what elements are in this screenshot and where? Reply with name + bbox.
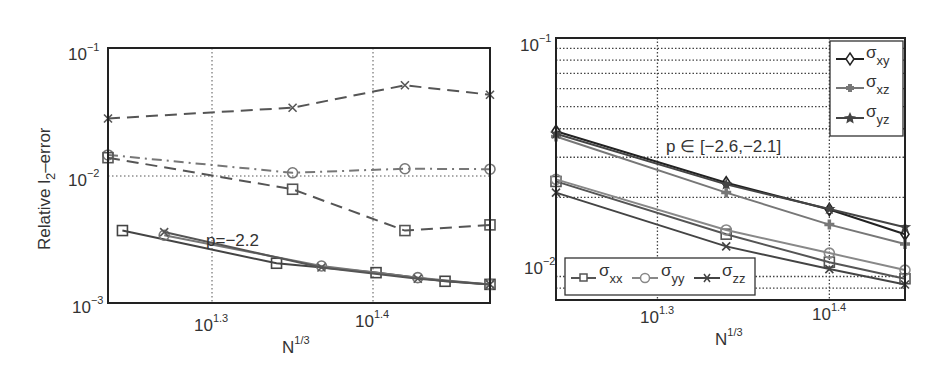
left-xtick-1: 101.3	[194, 312, 228, 335]
right-slope-annotation: p ∈ [−2.6,−2.1]	[666, 137, 781, 156]
legend-top-right: σxy σxz σyz	[830, 41, 903, 136]
left-xlabel: N1/3	[282, 334, 310, 357]
right-xtick-1: 101.3	[640, 304, 674, 327]
left-ylabel: Relative l2–error	[35, 127, 58, 250]
left-ytick-1: 10−1	[68, 41, 99, 64]
left-chart: 10−1 10−2 10−3 101.3 101.4 N1/3 Relative…	[35, 41, 495, 357]
figure: 10−1 10−2 10−3 101.3 101.4 N1/3 Relative…	[0, 0, 938, 377]
right-xlabel: N1/3	[715, 326, 743, 349]
right-ytick-2: 10−2	[524, 255, 555, 278]
legend-bottom-left: σxx σyy σzz	[565, 258, 755, 295]
circle-marker-icon	[641, 274, 650, 283]
left-slope-annotation: p=−2.2	[206, 231, 259, 250]
right-ytick-1: 10−1	[520, 32, 551, 55]
left-ytick-2: 10−2	[68, 167, 99, 190]
square-marker-icon	[580, 274, 587, 281]
left-ytick-3: 10−3	[72, 294, 103, 317]
right-xtick-2: 101.4	[812, 301, 846, 324]
right-chart: 10−1 10−2 101.3 101.4 N1/3 p ∈ [−2.6,−2.…	[520, 32, 911, 349]
left-xtick-2: 101.4	[355, 308, 389, 331]
